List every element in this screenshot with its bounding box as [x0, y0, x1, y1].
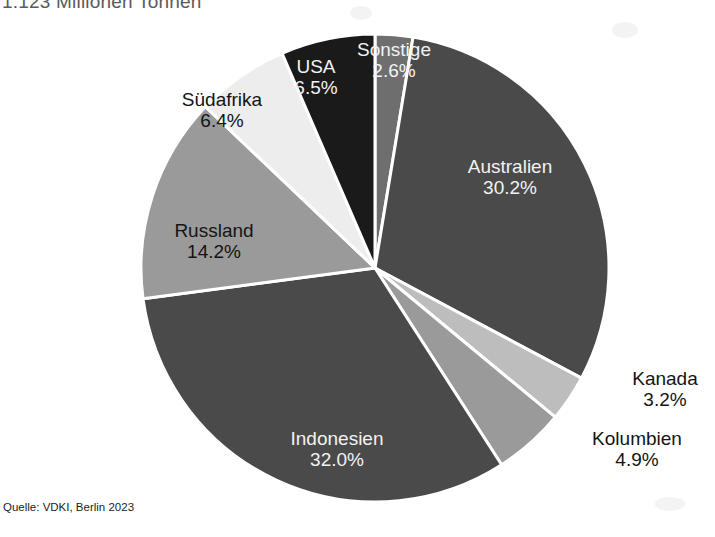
- slice-label-australien: Australien 30.2%: [468, 156, 553, 199]
- slice-label-sonstige-name: Sonstige: [357, 39, 431, 60]
- source-note: Quelle: VDKI, Berlin 2023: [3, 501, 134, 513]
- slice-label-kanada: Kanada 3.2%: [632, 368, 698, 411]
- slice-label-indonesien-value: 32.0%: [291, 449, 384, 470]
- slice-label-australien-name: Australien: [468, 156, 553, 177]
- slice-label-russland-value: 14.2%: [174, 241, 253, 262]
- slice-label-indonesien: Indonesien 32.0%: [291, 428, 384, 471]
- slice-label-kolumbien: Kolumbien 4.9%: [592, 428, 682, 471]
- slice-label-usa-value: 6.5%: [294, 77, 337, 98]
- slice-label-indonesien-name: Indonesien: [291, 428, 384, 449]
- slice-label-sonstige: Sonstige 2.6%: [357, 39, 431, 82]
- slice-label-kanada-value: 3.2%: [632, 389, 698, 410]
- slice-label-usa: USA 6.5%: [294, 56, 337, 99]
- slice-label-russland-name: Russland: [174, 220, 253, 241]
- slice-label-russland: Russland 14.2%: [174, 220, 253, 263]
- slice-label-suedafrika-value: 6.4%: [182, 110, 262, 131]
- slice-label-kanada-name: Kanada: [632, 368, 698, 389]
- slice-label-kolumbien-name: Kolumbien: [592, 428, 682, 449]
- slice-label-suedafrika: Südafrika 6.4%: [182, 89, 262, 132]
- pie-chart-figure: 1.123 Millionen Tonnen Australien 30.2% …: [0, 0, 715, 537]
- slice-label-suedafrika-name: Südafrika: [182, 89, 262, 110]
- slice-label-australien-value: 30.2%: [468, 177, 553, 198]
- slice-label-kolumbien-value: 4.9%: [592, 449, 682, 470]
- slice-label-sonstige-value: 2.6%: [357, 60, 431, 81]
- slice-label-usa-name: USA: [294, 56, 337, 77]
